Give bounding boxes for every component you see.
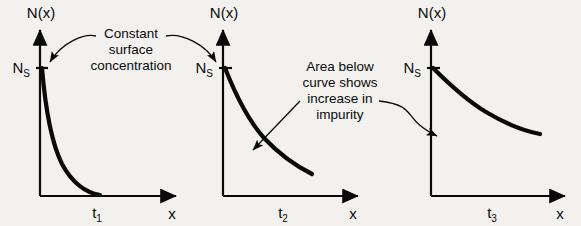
- diffusion-profile-diagram: N(x) NS t1 x N(x) NS t2 x: [0, 0, 581, 226]
- panel-t3: N(x) NS t3 x: [403, 4, 565, 224]
- panel-t3-y-tick-label: NS: [403, 59, 421, 79]
- panel-t2-y-axis-label: N(x): [210, 4, 238, 21]
- leader-arrow-to-panel-t2-ns: [166, 36, 216, 62]
- panel-t3-x-axis-label: x: [556, 205, 564, 222]
- panel-t1-x-axis-label: x: [168, 205, 176, 222]
- panel-t3-time-label: t3: [487, 204, 497, 224]
- annotation-area-line-3: increase in: [307, 91, 372, 106]
- panel-t2-y-tick-label: NS: [195, 59, 213, 79]
- leader-arrow-to-panel-t3-area: [379, 101, 437, 136]
- panel-t1-y-tick-label: NS: [12, 59, 30, 79]
- panel-t3-curve: [433, 68, 540, 134]
- annotation-constant-line-2: surface: [109, 42, 153, 57]
- annotation-constant-line-1: Constant: [104, 26, 158, 41]
- leader-arrow-to-panel-t1-ns: [50, 35, 96, 62]
- leader-arrow-to-panel-t2-area: [253, 101, 300, 150]
- annotation-area-line-1: Area below: [306, 59, 374, 74]
- panel-t2-x-axis-label: x: [349, 205, 357, 222]
- annotation-area-line-4: impurity: [316, 107, 364, 122]
- annotation-area-line-2: curve shows: [302, 75, 377, 90]
- panel-t1-y-axis-label: N(x): [27, 4, 55, 21]
- annotation-constant-surface-concentration: Constant surface concentration: [50, 26, 216, 73]
- panel-t2-curve: [225, 68, 312, 174]
- panel-t2-time-label: t2: [278, 204, 288, 224]
- annotation-constant-line-3: concentration: [90, 58, 171, 73]
- panel-t3-y-axis-label: N(x): [418, 4, 446, 21]
- panel-t1-curve: [42, 68, 100, 195]
- panel-t1-time-label: t1: [92, 204, 102, 224]
